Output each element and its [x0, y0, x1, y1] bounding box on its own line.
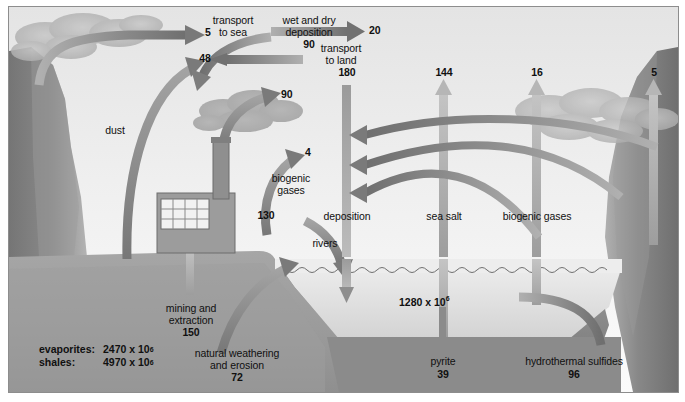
label-pyrite-value: 39	[413, 369, 473, 381]
label-weathering-value: 72	[175, 372, 299, 384]
evaporites-exponent: 6	[150, 343, 154, 356]
label-wet-dry-deposition: wet and dry deposition	[265, 15, 353, 38]
label-mining: mining and extraction	[150, 303, 232, 326]
label-transport-to-land: transport to land	[307, 43, 375, 66]
ocean-reservoir-value: 1280 x 10	[399, 296, 446, 308]
label-transport-to-sea: transport to sea	[199, 15, 267, 38]
label-dust-value: 8	[205, 53, 225, 65]
label-sea-salt-value: 144	[426, 67, 462, 79]
shales-value: 4970 x 10	[103, 356, 150, 369]
label-industrial-emission-value: 90	[281, 89, 303, 101]
label-rivers-value: 130	[253, 210, 279, 222]
evaporites-key: evaporites:	[39, 343, 103, 356]
shales-exponent: 6	[150, 356, 154, 369]
label-volcanic-ocean-value: 5	[637, 67, 671, 79]
label-deposition: deposition	[311, 211, 383, 223]
reservoir-block: evaporites: 2470 x 106 shales: 4970 x 10…	[39, 343, 154, 369]
label-dust: dust	[95, 125, 135, 137]
label-transport-to-land-value: 4	[187, 53, 205, 65]
ocean-reservoir: 1280 x 106	[399, 295, 450, 308]
label-biogenic-ocean: biogenic gases	[495, 211, 579, 223]
label-pyrite: pyrite	[413, 356, 473, 368]
label-hydrothermal-value: 96	[509, 369, 639, 381]
label-biogenic-ocean-value: 16	[519, 67, 555, 79]
shales-key: shales:	[39, 356, 103, 369]
label-weathering: natural weathering and erosion	[175, 348, 299, 371]
ocean-reservoir-exponent: 6	[446, 295, 450, 302]
arrow-pyrite	[439, 307, 446, 355]
evaporites-value: 2470 x 10	[103, 343, 150, 356]
label-mining-value: 150	[150, 327, 232, 339]
smokestack	[213, 141, 229, 199]
label-biogenic-gases-land-value: 4	[305, 147, 323, 159]
label-biogenic-gases-land: biogenic gases	[259, 173, 323, 196]
sulfur-cycle-figure: 5 8 dust wet and dry deposition 90 90 bi…	[0, 0, 685, 402]
label-sea-salt: sea salt	[409, 211, 479, 223]
label-rivers: rivers	[303, 238, 347, 250]
label-hydrothermal: hydrothermal sulfides	[509, 356, 639, 368]
diagram-frame: 5 8 dust wet and dry deposition 90 90 bi…	[8, 6, 679, 393]
label-deposition-value: 180	[329, 67, 365, 79]
label-transport-to-sea-value: 20	[369, 25, 391, 37]
